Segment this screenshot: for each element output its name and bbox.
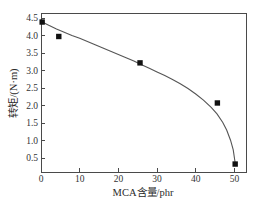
data-point-marker bbox=[137, 60, 142, 65]
y-tick-label: 4.5 bbox=[26, 13, 38, 23]
y-axis-title: 转矩/(N·m) bbox=[7, 68, 20, 118]
x-tick-label: 40 bbox=[191, 174, 201, 184]
x-tick-label: 30 bbox=[152, 174, 162, 184]
data-point-marker bbox=[215, 100, 220, 105]
data-point-marker bbox=[39, 19, 44, 24]
data-point-marker bbox=[56, 34, 61, 39]
x-axis-ticks bbox=[41, 168, 235, 172]
x-tick-label: 50 bbox=[230, 174, 240, 184]
y-tick-label: 0.5 bbox=[26, 153, 38, 163]
y-tick-label: 3.0 bbox=[26, 66, 38, 76]
axes-frame bbox=[41, 13, 246, 172]
x-tick-label: 20 bbox=[114, 174, 124, 184]
figure-container: 0.5 1.0 1.5 2.0 2.5 3.0 3.5 4.0 4.5 0 10… bbox=[0, 0, 259, 208]
y-tick-label: 3.5 bbox=[26, 48, 38, 58]
x-axis-tick-labels: 0 10 20 30 40 50 bbox=[39, 174, 240, 184]
y-tick-label: 4.0 bbox=[26, 31, 38, 41]
y-tick-label: 1.0 bbox=[26, 136, 38, 146]
data-point-group bbox=[39, 19, 237, 166]
data-point-marker bbox=[232, 161, 237, 166]
y-tick-label: 2.0 bbox=[26, 101, 38, 111]
x-tick-label: 10 bbox=[75, 174, 85, 184]
x-tick-label: 0 bbox=[39, 174, 44, 184]
y-axis-tick-labels: 0.5 1.0 1.5 2.0 2.5 3.0 3.5 4.0 4.5 bbox=[26, 13, 38, 163]
x-axis-title: MCA含量/phr bbox=[113, 186, 174, 198]
y-tick-label: 2.5 bbox=[26, 83, 38, 93]
y-tick-label: 1.5 bbox=[26, 118, 38, 128]
torque-vs-mca-chart: 0.5 1.0 1.5 2.0 2.5 3.0 3.5 4.0 4.5 0 10… bbox=[0, 0, 259, 208]
fitted-curve bbox=[42, 22, 235, 163]
y-axis-ticks bbox=[41, 18, 45, 158]
